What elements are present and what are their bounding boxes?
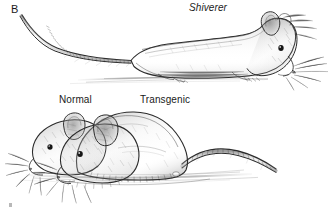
transgenic-ear	[93, 115, 118, 146]
shiverer-tail	[20, 15, 131, 67]
normal-mouse-eye	[47, 144, 52, 150]
label-transgenic: Transgenic	[140, 94, 190, 105]
label-shiverer: Shiverer	[189, 2, 227, 13]
normal-transgenic-mice-drawing	[5, 112, 276, 203]
corner-artifact-mark	[9, 203, 12, 207]
panel-letter: B	[11, 3, 19, 15]
shiverer-mouse-drawing	[20, 12, 328, 91]
figure-panel-b: B Shiverer Normal Transgenic	[0, 0, 333, 217]
shiverer-eye	[278, 45, 283, 51]
transgenic-tail	[182, 148, 276, 172]
transgenic-eye	[77, 151, 83, 157]
mouse-illustration	[0, 0, 333, 217]
label-normal: Normal	[59, 94, 92, 105]
